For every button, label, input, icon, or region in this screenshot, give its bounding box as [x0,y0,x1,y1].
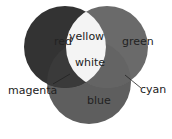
label-white: white [75,56,105,69]
label-yellow: yellow [69,30,104,43]
label-magenta: magenta [8,84,57,97]
label-blue: blue [87,94,111,107]
venn-diagram: red yellow green white magenta cyan blue [0,0,172,139]
label-cyan: cyan [140,83,166,96]
label-green: green [122,35,154,48]
